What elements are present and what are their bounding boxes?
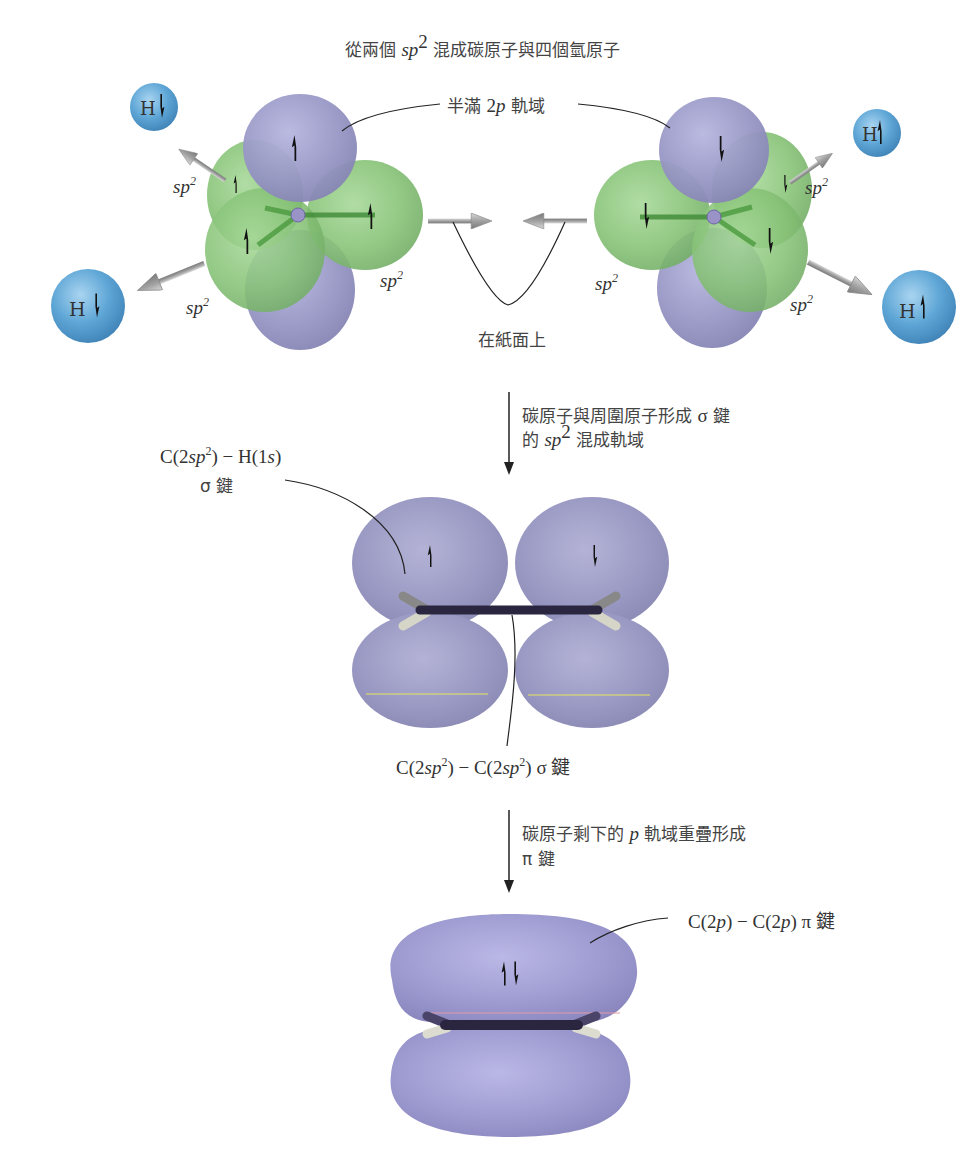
step-arrow-1-head xyxy=(504,462,514,475)
sp2-label: sp2 xyxy=(380,270,403,292)
cc-sigma-bond-label: C(2sp2) − C(2sp2) σ 鍵 xyxy=(396,752,570,779)
hydrogen-symbol: H xyxy=(862,124,878,145)
in-plane-bracket xyxy=(453,222,565,305)
bond-direction-arrow-icon xyxy=(428,213,492,229)
hydrogen-symbol: H xyxy=(140,98,156,119)
sp2-label: sp2 xyxy=(173,176,196,198)
sigma-framework-molecule xyxy=(352,497,669,728)
leader-line-cc-sigma xyxy=(507,615,515,746)
in-plane-label: 在紙面上 xyxy=(478,326,546,351)
leader-line-half-filled-left xyxy=(342,104,440,131)
left-sp2-carbon xyxy=(205,94,423,350)
p-orbital-upper-lobe xyxy=(243,94,357,202)
ch-sigma-bond-label: C(2sp2) − H(1s) xyxy=(160,446,281,468)
sp2-label: sp2 xyxy=(595,273,618,295)
step-2-description-line-2: π 鍵 xyxy=(522,845,555,870)
pi-lobe-upper xyxy=(390,914,637,1022)
step-1-description-line-1: 碳原子與周圍原子形成 σ 鍵 xyxy=(522,402,730,427)
hydrogen-symbol: H xyxy=(69,298,86,320)
left-hydrogen-top: H xyxy=(130,83,229,186)
carbon-nucleus xyxy=(291,208,305,222)
figure-title: 從兩個 sp2 混成碳原子與四個氫原子 xyxy=(345,36,620,61)
sp2-lobe-lower-left xyxy=(205,188,325,312)
hydrogen-symbol: H xyxy=(899,300,916,322)
step-2-description-line-1: 碳原子剩下的 p 軌域重疊形成 xyxy=(522,820,746,845)
pi-bond-molecule xyxy=(390,914,637,1137)
bond-direction-arrow-icon xyxy=(523,213,587,229)
sp2-label: sp2 xyxy=(186,297,209,319)
p-lobe-lower-left xyxy=(352,612,508,728)
sp2-label: sp2 xyxy=(790,294,813,316)
half-filled-2p-label: 半滿 2p 軌域 xyxy=(447,92,545,117)
p-orbital-upper-lobe xyxy=(659,97,769,203)
bond-direction-arrow-icon xyxy=(804,254,876,303)
ethylene-bonding-diagram: H H H H xyxy=(0,0,977,1154)
sp2-label: sp2 xyxy=(805,177,828,199)
carbon-nucleus xyxy=(707,210,721,224)
left-hydrogen-bottom: H xyxy=(51,255,208,343)
pi-bond-label: C(2p) − C(2p) π 鍵 xyxy=(688,906,835,933)
right-sp2-carbon xyxy=(594,97,812,348)
p-lobe-lower-right xyxy=(515,612,669,728)
leader-line-half-filled-right xyxy=(578,104,670,128)
step-arrow-2-head xyxy=(504,880,514,893)
step-1-description-line-2: 的 sp2 混成軌域 xyxy=(522,426,644,451)
bond-direction-arrow-icon xyxy=(134,255,208,299)
pi-lobe-lower xyxy=(391,1030,631,1137)
ch-sigma-bond-label-line-2: σ 鍵 xyxy=(200,472,233,497)
right-hydrogen-bottom: H xyxy=(804,254,956,344)
